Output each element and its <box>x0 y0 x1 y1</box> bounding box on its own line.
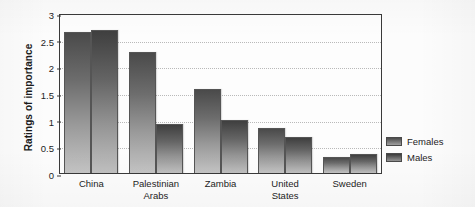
bar-series-container <box>60 15 381 173</box>
bar-males <box>350 154 377 173</box>
y-axis-tick-label: 2.5 <box>41 36 60 47</box>
x-axis-tick-label: Sweden <box>308 178 392 190</box>
y-axis-tick-label: 0.5 <box>41 143 60 154</box>
bar-group <box>129 15 185 173</box>
legend-label-females: Females <box>407 136 443 147</box>
y-axis-tick-label: 1.5 <box>41 90 60 101</box>
plot-area: 00.511.522.53 <box>59 14 382 174</box>
bar-males <box>221 120 248 173</box>
bar-males <box>156 124 183 173</box>
y-axis-tick-label: 1 <box>49 116 60 127</box>
bar-females <box>64 32 91 173</box>
bar-males <box>91 30 118 173</box>
bar-females <box>258 128 285 173</box>
bar-females <box>129 52 156 173</box>
legend-item-females: Females <box>386 134 443 148</box>
y-axis-tick-label: 2 <box>49 63 60 74</box>
bar-females <box>194 89 221 173</box>
y-axis-title: Ratings of importance <box>23 18 34 178</box>
legend-swatch-males-icon <box>386 153 402 162</box>
legend-item-males: Males <box>386 150 443 164</box>
bar-group <box>194 15 250 173</box>
bar-group <box>64 15 120 173</box>
bar-females <box>323 157 350 173</box>
legend-label-males: Males <box>407 152 432 163</box>
legend: Females Males <box>386 134 443 166</box>
bar-group <box>258 15 314 173</box>
bar-group <box>323 15 379 173</box>
bar-males <box>285 137 312 173</box>
y-axis-tick-label: 3 <box>49 10 60 21</box>
legend-swatch-females-icon <box>386 137 402 146</box>
chart-figure: Ratings of importance 00.511.522.53 Chin… <box>0 0 475 207</box>
